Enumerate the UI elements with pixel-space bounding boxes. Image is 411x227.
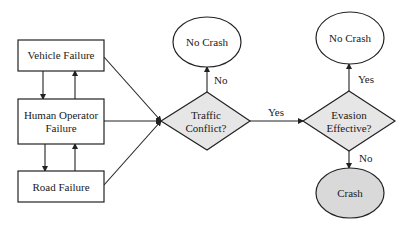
edge-vehicle-to-traffic bbox=[104, 57, 161, 121]
edge-road-to-traffic bbox=[104, 121, 161, 185]
node-vehicle-failure: Vehicle Failure bbox=[18, 40, 104, 71]
evasion-effective-label-line2: Effective? bbox=[327, 122, 372, 134]
node-traffic-conflict: Traffic Conflict? bbox=[161, 92, 250, 150]
edge-label-evasion-no: No bbox=[359, 152, 373, 164]
traffic-conflict-label-line2: Conflict? bbox=[186, 122, 227, 134]
evasion-effective-label-line1: Evasion bbox=[331, 109, 367, 121]
road-failure-label: Road Failure bbox=[32, 181, 89, 193]
flowchart-diagram: Vehicle Failure Human Operator Failure R… bbox=[0, 0, 411, 227]
traffic-conflict-label-line1: Traffic bbox=[191, 109, 221, 121]
edge-label-traffic-no: No bbox=[214, 74, 228, 86]
node-crash: Crash bbox=[316, 168, 384, 218]
crash-label: Crash bbox=[337, 187, 363, 199]
edge-label-evasion-yes: Yes bbox=[358, 73, 374, 85]
node-evasion-effective: Evasion Effective? bbox=[303, 91, 395, 151]
human-operator-failure-label-line2: Failure bbox=[45, 122, 76, 134]
human-operator-failure-label-line1: Human Operator bbox=[24, 109, 99, 121]
vehicle-failure-label: Vehicle Failure bbox=[28, 49, 95, 61]
node-no-crash-1: No Crash bbox=[173, 17, 241, 67]
node-no-crash-2: No Crash bbox=[316, 12, 384, 64]
no-crash-1-label: No Crash bbox=[186, 36, 228, 48]
no-crash-2-label: No Crash bbox=[329, 32, 371, 44]
node-human-operator-failure: Human Operator Failure bbox=[18, 99, 104, 144]
edge-label-traffic-yes: Yes bbox=[268, 106, 284, 118]
node-road-failure: Road Failure bbox=[18, 171, 104, 202]
